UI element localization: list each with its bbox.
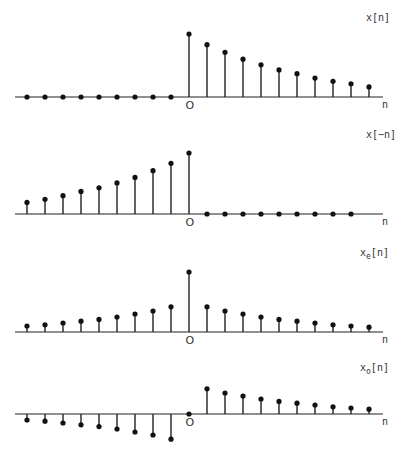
n-axis-label: n: [382, 416, 388, 427]
stem-marker: [96, 424, 101, 429]
stem-marker: [132, 429, 137, 434]
stem-marker: [24, 94, 29, 99]
stem-marker: [294, 401, 299, 406]
stem-marker: [258, 314, 263, 319]
stem-marker: [78, 189, 83, 194]
origin-label: O: [186, 416, 195, 429]
stem-marker: [222, 308, 227, 313]
stem-marker: [276, 67, 281, 72]
stem-marker: [150, 308, 155, 313]
stem-marker: [258, 396, 263, 401]
stem-marker: [312, 211, 317, 216]
stem-marker: [24, 417, 29, 422]
n-axis-label: n: [382, 216, 388, 227]
stem-marker: [114, 94, 119, 99]
origin-label: O: [186, 99, 195, 112]
stem-marker: [348, 323, 353, 328]
stem-marker: [132, 94, 137, 99]
signal-label: xe[n]: [360, 247, 389, 261]
stem-marker: [204, 304, 209, 309]
stem-marker: [258, 62, 263, 67]
stem-marker: [114, 314, 119, 319]
stem-marker: [240, 393, 245, 398]
stem-marker: [60, 193, 65, 198]
stem-marker: [348, 211, 353, 216]
stem-marker: [78, 94, 83, 99]
stem-marker: [240, 57, 245, 62]
stem-marker: [42, 94, 47, 99]
stem-marker: [42, 197, 47, 202]
signal-label: x[−n]: [366, 129, 396, 140]
signal-label: xo[n]: [360, 362, 389, 376]
stem-marker: [222, 390, 227, 395]
stem-marker: [24, 323, 29, 328]
panel-x-even: Onxe[n]: [15, 247, 389, 347]
stem-marker: [276, 211, 281, 216]
origin-label: O: [186, 334, 195, 347]
n-axis-label: n: [382, 334, 388, 345]
stem-marker: [150, 168, 155, 173]
stem-marker: [294, 211, 299, 216]
stem-marker: [330, 322, 335, 327]
stem-marker: [60, 94, 65, 99]
stem-marker: [276, 399, 281, 404]
stem-marker: [348, 405, 353, 410]
stem-marker: [204, 211, 209, 216]
stem-marker: [186, 269, 191, 274]
stem-marker: [366, 84, 371, 89]
stem-marker: [60, 420, 65, 425]
stem-marker: [96, 185, 101, 190]
stem-marker: [186, 150, 191, 155]
stem-marker: [168, 437, 173, 442]
stem-marker: [276, 317, 281, 322]
origin-label: O: [186, 216, 195, 229]
stem-marker: [186, 31, 191, 36]
stem-marker: [168, 304, 173, 309]
n-axis-label: n: [382, 99, 388, 110]
stem-marker: [96, 317, 101, 322]
panel-x-minus-n: Onx[−n]: [15, 129, 396, 229]
stem-marker: [222, 211, 227, 216]
stem-marker: [114, 180, 119, 185]
stem-marker: [132, 175, 137, 180]
stem-marker: [294, 71, 299, 76]
signal-decomposition-figure: Onx[n] Onx[−n] Onxe[n] Onxo[n]: [0, 0, 401, 456]
stem-marker: [240, 311, 245, 316]
stem-marker: [78, 422, 83, 427]
stem-marker: [24, 200, 29, 205]
stem-marker: [204, 42, 209, 47]
stem-marker: [222, 50, 227, 55]
stem-marker: [96, 94, 101, 99]
stem-marker: [312, 402, 317, 407]
panel-x-odd: Onxo[n]: [15, 362, 389, 442]
stem-marker: [150, 432, 155, 437]
stem-marker: [348, 81, 353, 86]
stem-marker: [240, 211, 245, 216]
stem-marker: [60, 320, 65, 325]
stem-marker: [132, 311, 137, 316]
stem-marker: [168, 161, 173, 166]
stem-marker: [168, 94, 173, 99]
stem-marker: [312, 320, 317, 325]
stem-marker: [150, 94, 155, 99]
stem-marker: [258, 211, 263, 216]
stem-marker: [78, 319, 83, 324]
stem-marker: [330, 79, 335, 84]
stem-marker: [204, 386, 209, 391]
stem-marker: [330, 211, 335, 216]
panel-x-n: Onx[n]: [15, 12, 390, 112]
stem-marker: [312, 76, 317, 81]
stem-marker: [366, 407, 371, 412]
stem-marker: [294, 319, 299, 324]
stem-marker: [114, 426, 119, 431]
stem-marker: [42, 419, 47, 424]
stem-marker: [330, 404, 335, 409]
stem-marker: [42, 322, 47, 327]
stem-marker: [366, 325, 371, 330]
signal-label: x[n]: [366, 12, 390, 23]
